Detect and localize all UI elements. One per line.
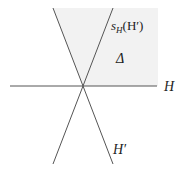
label-H-prime: H′ xyxy=(112,142,127,157)
label-sH-arg: (H′) xyxy=(123,18,144,33)
hyperplane-diagram: sH(H′) Δ H H′ xyxy=(0,0,184,169)
label-sH-H-prime: sH(H′) xyxy=(111,18,143,35)
label-H: H xyxy=(163,79,175,94)
label-chamber-delta: Δ xyxy=(115,51,124,66)
